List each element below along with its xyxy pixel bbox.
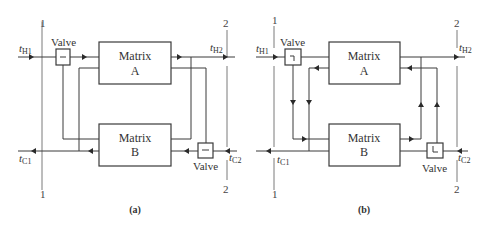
arrow-right-icon: [409, 136, 414, 142]
label-t-h1: tH1: [256, 42, 269, 56]
section-label-1-top: 1: [40, 17, 46, 29]
matrix-b-letter: B: [360, 145, 368, 159]
label-t-c2: tC2: [458, 151, 470, 165]
arrow-icon: [88, 148, 93, 154]
matrix-a-letter: A: [360, 64, 369, 78]
arrow-down-icon: [290, 100, 296, 105]
arrow-icon: [454, 54, 459, 60]
label-t-c1: tC1: [277, 153, 289, 167]
section-label-1-bottom: 1: [272, 188, 278, 200]
valve-bypass-left: [63, 65, 99, 139]
label-t-c2: tC2: [229, 151, 241, 165]
arrow-icon: [177, 54, 182, 60]
matrix-a-letter: A: [131, 64, 140, 78]
section-label-2-bottom: 2: [223, 183, 229, 195]
arrow-up-icon: [434, 102, 440, 107]
arrow-icon: [82, 54, 87, 60]
section-label-2-bottom: 2: [454, 183, 460, 195]
valve-top-label: Valve: [51, 36, 76, 48]
valve-bottom-box: [427, 143, 443, 158]
matrix-b-letter: B: [131, 145, 139, 159]
section-label-2-top: 2: [223, 17, 229, 29]
arrow-icon: [31, 148, 36, 154]
label-t-h2: tH2: [459, 41, 472, 55]
valve-to-matrix-a-right: [400, 68, 437, 143]
arrow-icon: [273, 54, 278, 60]
label-t-c1: tC1: [19, 152, 31, 166]
arrow-right-icon: [302, 136, 307, 142]
matrix-a-label: Matrix: [119, 49, 152, 63]
section-label-2-top: 2: [454, 17, 460, 29]
arrow-up-icon: [418, 102, 424, 107]
valve-to-matrix-b-loop: [293, 65, 329, 139]
arrow-left-icon: [407, 65, 412, 71]
panel-a: 1 1 2 2 Matrix A Matrix B Valve: [18, 17, 241, 216]
arrow-down-icon: [306, 100, 312, 105]
panel-b: 1 1 2 2 Matrix A Matrix: [256, 14, 472, 216]
caption-b: (b): [358, 204, 370, 216]
matrix-b-link-right: [171, 57, 191, 139]
caption-a: (a): [129, 204, 141, 216]
matrix-b-label: Matrix: [119, 131, 152, 145]
valve-top-label: Valve: [280, 36, 305, 48]
arrow-icon: [184, 148, 189, 154]
regenerator-flow-diagram: 1 1 2 2 Matrix A Matrix B Valve: [0, 0, 489, 228]
valve-top-box: [285, 49, 301, 65]
valve-bottom-label: Valve: [193, 160, 218, 172]
matrix-a-label: Matrix: [348, 49, 381, 63]
label-t-h1: tH1: [19, 42, 32, 56]
matrix-a-to-valve-right: [171, 68, 206, 143]
section-label-1-top: 1: [272, 14, 278, 26]
label-t-h2: tH2: [210, 41, 223, 55]
section-label-1-bottom: 1: [40, 188, 46, 200]
arrow-left-icon: [314, 65, 319, 71]
matrix-b-label: Matrix: [348, 131, 381, 145]
arrow-icon: [266, 148, 271, 154]
valve-bottom-label: Valve: [422, 162, 447, 174]
